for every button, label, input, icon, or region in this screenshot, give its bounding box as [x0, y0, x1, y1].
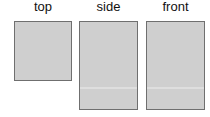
label-top: top: [14, 0, 72, 14]
label-side: side: [79, 0, 138, 14]
label-front: front: [146, 0, 205, 14]
front-highlight: [147, 87, 204, 89]
top-view-box: [14, 21, 72, 81]
front-view-box: [146, 21, 205, 110]
side-highlight: [80, 87, 137, 89]
side-view-box: [79, 21, 138, 110]
